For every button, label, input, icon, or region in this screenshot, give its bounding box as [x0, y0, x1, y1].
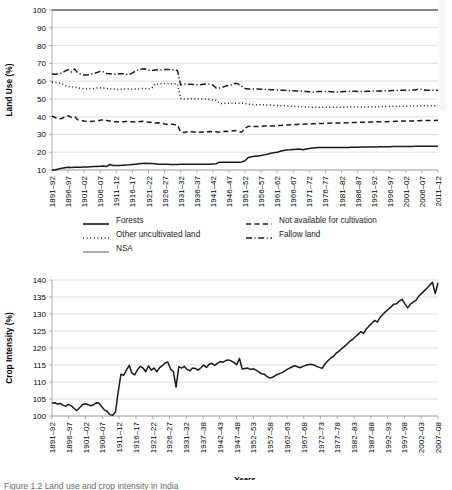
x-tick-label: 1901–02 — [82, 421, 91, 453]
series-line-crop-intensity — [52, 282, 438, 415]
x-tick-label: 1991–92 — [370, 175, 379, 207]
x-tick-label: 1962–63 — [283, 421, 292, 453]
legend-label-fallow-land: Fallow land — [279, 230, 320, 239]
y-tick-label: 125 — [33, 327, 47, 336]
y-tick-label: 50 — [37, 95, 46, 104]
x-tick-label: 1982–83 — [350, 421, 359, 453]
x-tick-label: 1896–97 — [65, 421, 74, 453]
y-tick-label: 135 — [33, 293, 47, 302]
y-tick-label: 130 — [33, 310, 47, 319]
legend-item-not-available-for-cultivation[interactable]: Not available for cultivation — [245, 214, 377, 226]
legend-column-right: Not available for cultivation Fallow lan… — [245, 214, 377, 242]
y-axis-title: Crop Intensity (%) — [4, 312, 14, 384]
x-tick-label: 1911–12 — [115, 421, 124, 452]
legend-item-forests[interactable]: Forests — [82, 214, 200, 226]
x-tick-label: 1896–97 — [64, 175, 73, 207]
legend-label-forests: Forests — [116, 216, 143, 225]
x-tick-label: 1931–32 — [182, 421, 191, 453]
y-tick-label: 80 — [37, 42, 46, 51]
legend-label-other-uncultivated-land: Other uncultivated land — [116, 230, 200, 239]
x-tick-label: 1937–38 — [199, 421, 208, 453]
crop-intensity-plot: 1001051101151201251301351401891–921896–9… — [0, 268, 452, 480]
x-tick-label: 1891–92 — [48, 175, 57, 207]
legend-swatch-solid — [82, 215, 110, 225]
x-tick-label: 1977–78 — [333, 421, 342, 453]
x-tick-label: 1992–93 — [384, 421, 393, 453]
y-axis-title: Land Use (%) — [4, 63, 14, 116]
x-tick-label: 1952–53 — [249, 421, 258, 453]
x-tick-label: 1967–68 — [300, 421, 309, 453]
x-tick-label: 1966–67 — [289, 175, 298, 207]
series-line-fallow-land — [52, 69, 438, 92]
x-tick-label: 1906–07 — [98, 421, 107, 453]
legend-label-not-available-for-cultivation: Not available for cultivation — [279, 216, 377, 225]
legend-column-left: Forests Other uncultivated land NSA — [82, 214, 200, 256]
x-tick-label: 2007–08 — [434, 421, 443, 453]
x-tick-label: 1951–52 — [241, 175, 250, 207]
series-line-not-available-for-cultivation — [52, 116, 438, 133]
x-tick-label: 1981–82 — [338, 175, 347, 207]
x-tick-label: 1911–12 — [112, 175, 121, 206]
x-tick-label: 1947–48 — [233, 421, 242, 453]
y-tick-label: 105 — [33, 395, 47, 404]
series-line-other-uncultivated-land — [52, 82, 438, 107]
figure-container: 1020304050607080901001891–921896–971901–… — [0, 0, 452, 490]
x-tick-label: 1972–73 — [317, 421, 326, 453]
x-tick-label: 1936–37 — [193, 175, 202, 207]
x-tick-label: 1976–77 — [321, 175, 330, 207]
land-use-plot: 1020304050607080901001891–921896–971901–… — [0, 0, 452, 212]
x-tick-label: 1931–32 — [177, 175, 186, 207]
legend-label-nsa: NSA — [116, 244, 133, 253]
y-tick-label: 140 — [33, 276, 47, 285]
y-tick-label: 40 — [37, 113, 46, 122]
x-tick-label: 1961–62 — [273, 175, 282, 207]
legend-swatch-solid-thin — [82, 243, 110, 253]
land-use-chart: 1020304050607080901001891–921896–971901–… — [0, 0, 452, 212]
x-tick-label: 1971–72 — [305, 175, 314, 207]
crop-intensity-chart: 1001051101151201251301351401891–921896–9… — [0, 268, 452, 480]
x-tick-label: 1926–27 — [161, 175, 170, 207]
x-tick-label: 1926–27 — [165, 421, 174, 453]
legend-swatch-dashed — [245, 215, 273, 225]
legend-item-fallow-land[interactable]: Fallow land — [245, 228, 377, 240]
x-axis-title: Years — [234, 475, 256, 480]
x-tick-label: 1997–98 — [400, 421, 409, 453]
legend-swatch-dotted — [82, 229, 110, 239]
x-tick-label: 2006–07 — [418, 175, 427, 207]
y-tick-label: 10 — [37, 166, 46, 175]
x-tick-label: 2001–02 — [402, 175, 411, 207]
x-tick-label: 1946–47 — [225, 175, 234, 207]
x-tick-label: 1906–07 — [96, 175, 105, 207]
x-tick-label: 1891–92 — [48, 421, 57, 453]
legend-item-other-uncultivated-land[interactable]: Other uncultivated land — [82, 228, 200, 240]
y-tick-label: 100 — [33, 412, 47, 421]
y-tick-label: 20 — [37, 148, 46, 157]
y-tick-label: 100 — [33, 6, 47, 15]
x-tick-label: 1916–17 — [128, 175, 137, 207]
x-tick-label: 1942–43 — [216, 421, 225, 453]
x-tick-label: 1956–57 — [257, 175, 266, 207]
x-tick-label: 2011–12 — [434, 175, 443, 206]
x-tick-label: 1921–22 — [145, 175, 154, 207]
y-tick-label: 30 — [37, 130, 46, 139]
y-tick-label: 120 — [33, 344, 47, 353]
x-tick-label: 1916–17 — [132, 421, 141, 453]
series-line-forests — [52, 146, 438, 170]
y-tick-label: 70 — [37, 59, 46, 68]
y-tick-label: 60 — [37, 77, 46, 86]
x-tick-label: 2002–03 — [417, 421, 426, 453]
x-tick-label: 1957–58 — [266, 421, 275, 453]
y-tick-label: 90 — [37, 24, 46, 33]
x-tick-label: 1987–88 — [367, 421, 376, 453]
legend-swatch-dashdot — [245, 229, 273, 239]
x-tick-label: 1996–97 — [386, 175, 395, 207]
x-tick-label: 1921–22 — [149, 421, 158, 453]
x-tick-label: 1941–42 — [209, 175, 218, 207]
y-tick-label: 115 — [33, 361, 46, 370]
y-tick-label: 110 — [33, 378, 46, 387]
x-tick-label: 1901–02 — [80, 175, 89, 207]
legend-item-nsa[interactable]: NSA — [82, 242, 200, 254]
figure-caption: Figure 1.2 Land use and crop intensity i… — [4, 481, 444, 490]
land-use-legend: Forests Other uncultivated land NSA N — [0, 214, 452, 264]
x-tick-label: 1986–87 — [354, 175, 363, 207]
